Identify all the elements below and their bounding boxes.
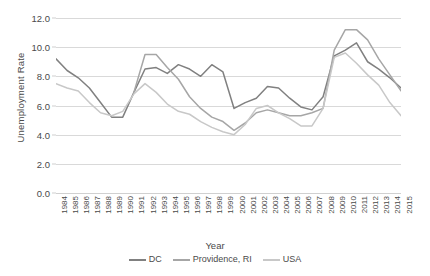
x-axis-tick-label: 1985 bbox=[71, 196, 80, 214]
series-line-providence-ri bbox=[134, 30, 401, 131]
x-axis-tick-label: 1987 bbox=[93, 196, 102, 214]
legend-swatch bbox=[263, 259, 280, 261]
y-axis-tick-mark bbox=[52, 18, 56, 19]
x-axis-tick-label: 2004 bbox=[282, 196, 291, 214]
x-axis-tick-label: 2005 bbox=[293, 196, 302, 214]
x-axis-tick-label: 2009 bbox=[338, 196, 347, 214]
x-axis-tick-label: 2010 bbox=[349, 196, 358, 214]
x-axis-tick-label: 2006 bbox=[304, 196, 313, 214]
x-axis-tick-label: 2015 bbox=[405, 196, 414, 214]
series-lines bbox=[56, 18, 401, 193]
x-axis-tick-label: 2012 bbox=[371, 196, 380, 214]
unemployment-rate-line-chart: Unemployment Rate 0.02.04.06.08.010.012.… bbox=[0, 0, 430, 276]
x-axis-tick-label: 2007 bbox=[315, 196, 324, 214]
x-axis-tick-label: 1998 bbox=[215, 196, 224, 214]
x-axis-tick-label: 1992 bbox=[149, 196, 158, 214]
x-axis-tick-label: 2013 bbox=[382, 196, 391, 214]
x-axis-tick-label: 1991 bbox=[137, 196, 146, 214]
legend-swatch bbox=[129, 259, 146, 261]
y-axis-tick-label: 12.0 bbox=[32, 13, 51, 24]
chart-legend: DCProvidence, RIUSA bbox=[0, 255, 430, 264]
x-axis-tick-label: 2011 bbox=[360, 196, 369, 213]
y-axis-title: Unemployment Rate bbox=[15, 18, 26, 178]
y-axis-tick-label: 4.0 bbox=[37, 129, 50, 140]
y-axis-tick-mark bbox=[52, 105, 56, 106]
legend-label: DC bbox=[149, 255, 162, 264]
x-axis-tick-label: 1997 bbox=[204, 196, 213, 214]
x-axis-tick-label: 1999 bbox=[226, 196, 235, 214]
y-axis-tick-label: 10.0 bbox=[32, 42, 51, 53]
x-axis-tick-label: 1993 bbox=[160, 196, 169, 214]
x-axis-title: Year bbox=[0, 240, 430, 251]
x-axis-tick-label: 2003 bbox=[271, 196, 280, 214]
y-axis-tick-label: 8.0 bbox=[37, 71, 50, 82]
x-axis-tick-label: 1986 bbox=[82, 196, 91, 214]
x-axis-tick-label: 1990 bbox=[126, 196, 135, 214]
y-axis-tick-label: 0.0 bbox=[37, 188, 50, 199]
x-axis-tick-label: 2002 bbox=[260, 196, 269, 214]
x-axis-tick-label: 2008 bbox=[327, 196, 336, 214]
legend-label: Providence, RI bbox=[193, 255, 252, 264]
series-line-usa bbox=[56, 53, 401, 135]
x-axis-tick-label: 1988 bbox=[104, 196, 113, 214]
x-axis-tick-label: 1995 bbox=[182, 196, 191, 214]
legend-swatch bbox=[173, 259, 190, 261]
x-axis-tick-label: 2001 bbox=[249, 196, 258, 214]
legend-item: USA bbox=[263, 255, 302, 264]
legend-item: Providence, RI bbox=[173, 255, 252, 264]
plot-area: 0.02.04.06.08.010.012.0 bbox=[56, 18, 401, 193]
legend-label: USA bbox=[283, 255, 302, 264]
x-axis-tick-label: 2000 bbox=[238, 196, 247, 214]
y-axis-tick-mark bbox=[52, 47, 56, 48]
y-axis-tick-mark bbox=[52, 76, 56, 77]
series-line-dc bbox=[56, 43, 401, 117]
x-axis-tick-label: 1989 bbox=[115, 196, 124, 214]
x-axis-tick-label: 1996 bbox=[193, 196, 202, 214]
x-axis-tick-label: 2014 bbox=[393, 196, 402, 214]
y-axis-tick-mark bbox=[52, 134, 56, 135]
y-axis-tick-mark bbox=[52, 163, 56, 164]
y-axis-tick-label: 6.0 bbox=[37, 100, 50, 111]
x-axis-tick-label: 1994 bbox=[171, 196, 180, 214]
legend-item: DC bbox=[129, 255, 162, 264]
y-axis-tick-label: 2.0 bbox=[37, 158, 50, 169]
x-axis-tick-label: 1984 bbox=[60, 196, 69, 214]
x-axis-tick-labels: 1984198519861987198819891990199119921993… bbox=[56, 194, 401, 238]
